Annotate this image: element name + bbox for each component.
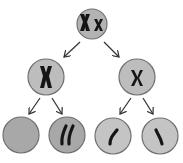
arrow-icon [104,42,119,57]
arrow-icon [120,98,131,114]
arrow-icon [143,98,153,114]
parent-cell [77,9,107,39]
gamete-cell-1 [3,117,39,153]
arrow-icon [29,98,40,114]
meiosis-diagram [0,0,183,163]
meiosis1-left-cell [28,59,64,95]
gamete-cell-3 [95,118,131,154]
arrow-icon [64,42,80,57]
meiosis1-right-cell [119,59,155,95]
gamete-cell-4 [142,118,178,154]
gamete-cell-2 [49,117,85,153]
arrow-icon [52,98,62,114]
